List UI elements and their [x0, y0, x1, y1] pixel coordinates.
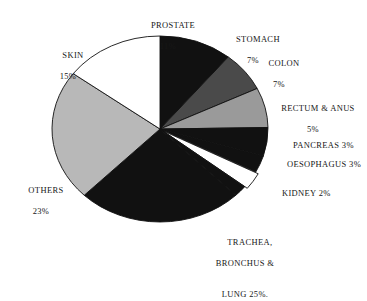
- slice-label-prostate: PROSTATE 11%: [131, 9, 205, 72]
- slice-label-lung-line1: TRACHEA,: [227, 237, 272, 247]
- slice-label-colon-pct: 7%: [245, 79, 313, 90]
- slice-label-oesophagus: OESOPHAGUS 3%: [277, 148, 361, 180]
- slice-label-kidney: KIDNEY 2%: [272, 177, 331, 209]
- slice-label-kidney-text: KIDNEY 2%: [282, 188, 331, 198]
- slice-label-others-pct: 23%: [11, 206, 71, 217]
- slice-label-others-name: OTHERS: [28, 185, 63, 195]
- slice-label-lung-line3: LUNG 25%.: [193, 289, 297, 300]
- slice-label-rectum-anus-name: RECTUM & ANUS: [281, 103, 355, 113]
- slice-label-lung: TRACHEA, BRONCHUS & LUNG 25%.: [193, 226, 297, 301]
- slice-label-others: OTHERS 23%: [11, 174, 71, 237]
- slice-label-prostate-name: PROSTATE: [151, 20, 195, 30]
- slice-label-skin-name: SKIN: [62, 50, 83, 60]
- slice-label-oesophagus-text: OESOPHAGUS 3%: [287, 159, 361, 169]
- slice-label-colon-name: COLON: [268, 58, 299, 68]
- slice-label-skin-pct: 15%: [40, 71, 96, 82]
- slice-label-stomach-name: STOMACH: [236, 34, 280, 44]
- slice-label-lung-line2: BRONCHUS &: [193, 258, 297, 269]
- slice-label-prostate-pct: 11%: [131, 41, 205, 52]
- slice-label-skin: SKIN 15%: [40, 39, 96, 102]
